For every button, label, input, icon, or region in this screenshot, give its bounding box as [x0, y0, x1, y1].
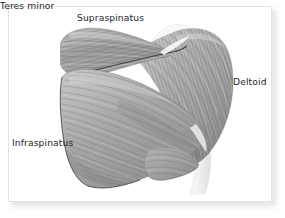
label-deltoid: Deltoid: [233, 76, 267, 87]
anatomy-illustration: [0, 0, 285, 218]
anatomy-figure: Supraspinatus Deltoid Infraspinatus Tere…: [0, 0, 285, 218]
label-infraspinatus: Infraspinatus: [12, 137, 73, 148]
label-supraspinatus: Supraspinatus: [77, 12, 144, 23]
label-teres-minor: Teres minor: [0, 0, 54, 11]
